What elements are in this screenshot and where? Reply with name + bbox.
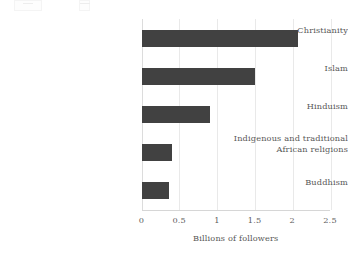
x-tick-label-1.5: 1.5 (238, 215, 272, 225)
category-label-indigenous-african-religions: Indigenous and traditional African relig… (215, 133, 348, 154)
x-tick-label-0: 0 (125, 215, 159, 225)
category-label-line-2: African religions (215, 144, 348, 155)
x-axis-line (142, 210, 331, 211)
bar-buddhism (142, 182, 170, 199)
category-label-islam: Islam (215, 63, 348, 74)
artifact-dash (23, 3, 33, 4)
x-axis-title: Billions of followers (142, 233, 331, 243)
x-tick-label-0.5: 0.5 (162, 215, 196, 225)
category-label-buddhism: Buddhism (215, 177, 348, 188)
artifact-dash (80, 3, 90, 4)
x-tick-label-2.5: 2.5 (313, 215, 347, 225)
category-label-line-1: Indigenous and traditional (215, 133, 348, 144)
top-edge-artifact-right (79, 0, 90, 11)
bar-indigenous-african-religions (142, 144, 172, 161)
chart-screenshot: Christianity Islam Hinduism Indigenous a… (0, 0, 348, 262)
category-label-christianity: Christianity (215, 25, 348, 36)
x-tick-label-2: 2 (275, 215, 309, 225)
category-label-hinduism: Hinduism (215, 101, 348, 112)
bar-hinduism (142, 106, 211, 123)
top-edge-artifact-left (14, 0, 42, 11)
x-tick-label-1: 1 (200, 215, 234, 225)
